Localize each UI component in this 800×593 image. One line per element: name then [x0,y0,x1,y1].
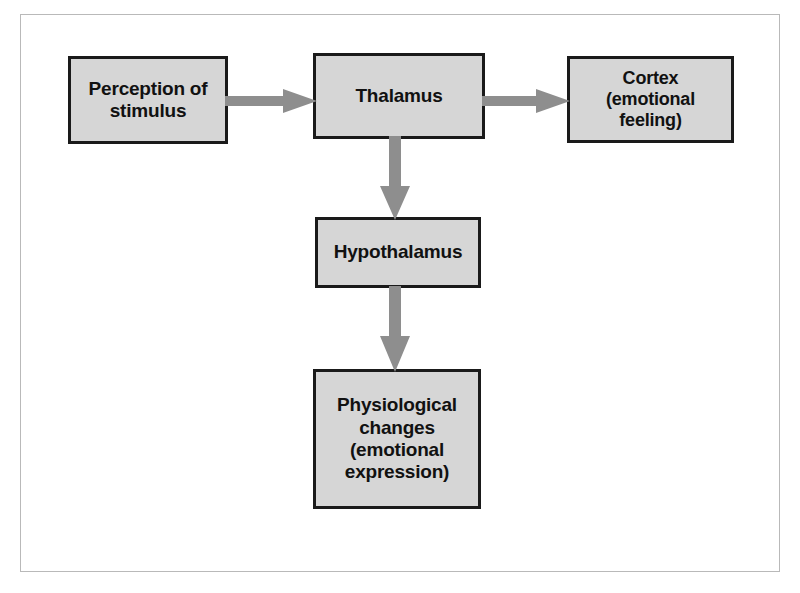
node-hypothalamus: Hypothalamus [315,217,481,288]
arrow-down-icon-hypothalamus-to-physiological-changes [379,286,411,372]
node-physiological-label: Physiological changes (emotional express… [316,394,478,484]
node-cortex-label: Cortex (emotional feeling) [570,68,731,132]
diagram-canvas: Perception of stimulus Thalamus Cortex (… [0,0,800,593]
node-hypothalamus-label: Hypothalamus [318,241,478,263]
arrow-right-icon-perception-to-thalamus [225,88,317,114]
node-thalamus: Thalamus [313,53,485,139]
node-perception-of-stimulus: Perception of stimulus [68,56,228,144]
node-physiological-changes: Physiological changes (emotional express… [313,369,481,509]
arrow-down-icon-thalamus-to-hypothalamus [379,136,411,220]
node-cortex-emotional-feeling: Cortex (emotional feeling) [567,56,734,143]
node-thalamus-label: Thalamus [316,85,482,107]
arrow-right-icon-thalamus-to-cortex [482,88,570,114]
node-perception-label: Perception of stimulus [71,78,225,123]
